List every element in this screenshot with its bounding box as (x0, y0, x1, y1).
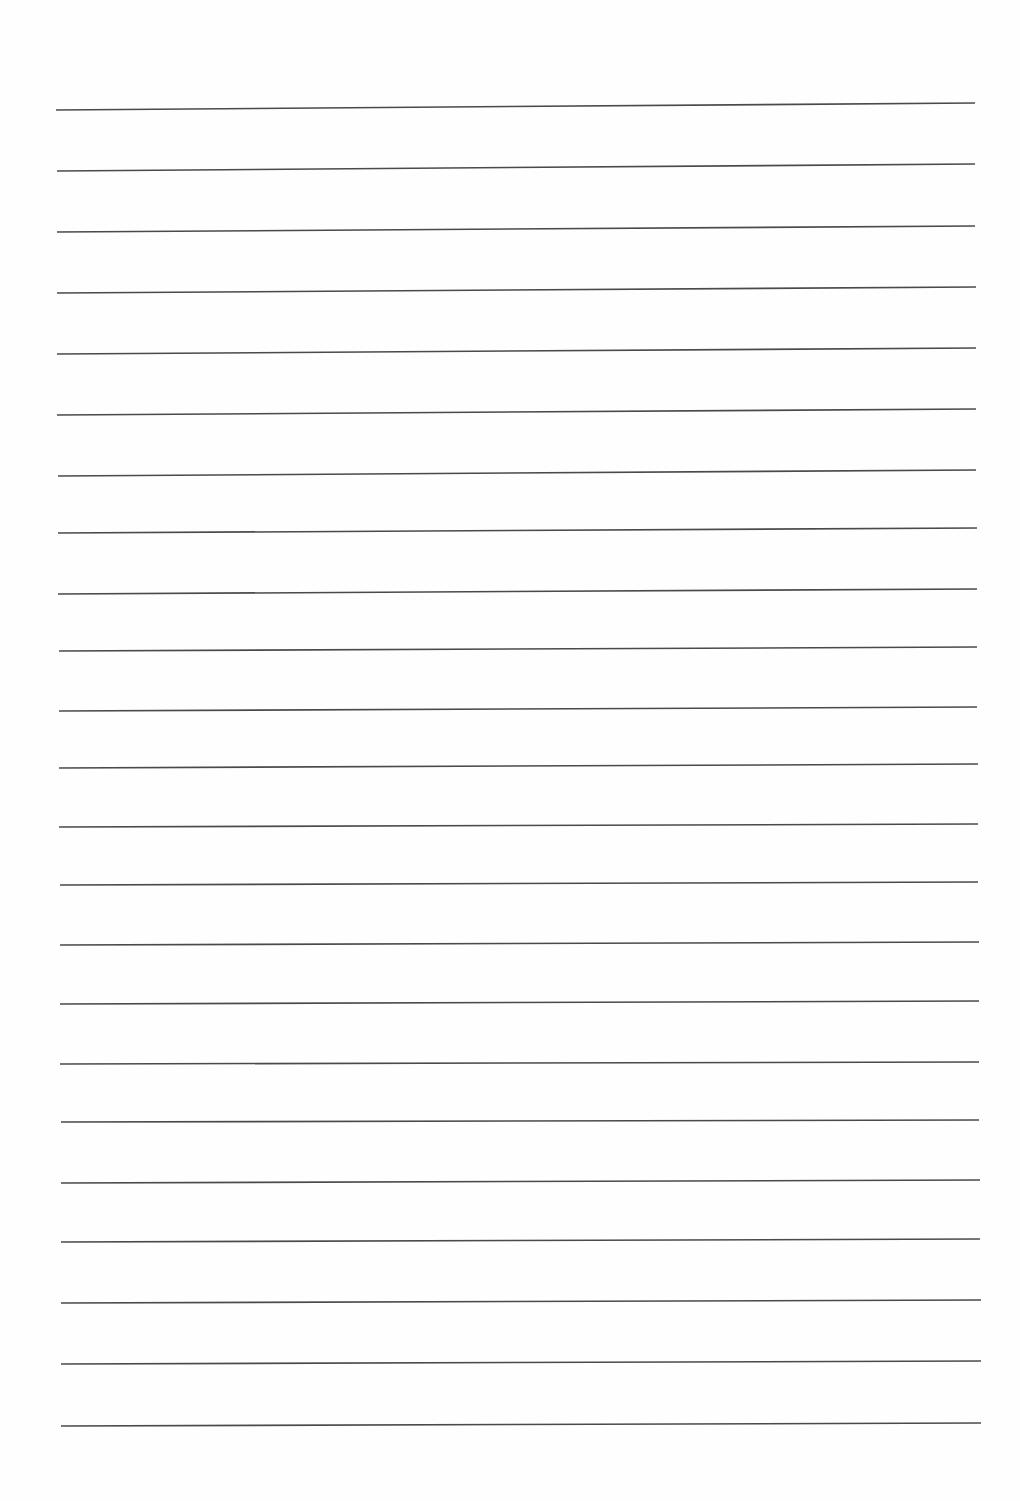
ruled-line-3 (57, 226, 975, 232)
ruled-line-13 (59, 824, 978, 827)
ruled-line-1 (56, 103, 975, 110)
ruled-lines (0, 0, 1020, 1501)
ruled-paper-page (0, 0, 1020, 1501)
ruled-line-12 (59, 764, 978, 768)
ruled-line-5 (57, 348, 976, 354)
ruled-line-11 (59, 707, 977, 711)
ruled-line-23 (61, 1423, 981, 1426)
ruled-line-14 (60, 882, 978, 885)
ruled-line-22 (61, 1361, 981, 1364)
ruled-line-15 (60, 942, 979, 945)
ruled-line-17 (60, 1062, 979, 1064)
ruled-line-4 (57, 287, 976, 293)
ruled-line-18 (61, 1120, 979, 1122)
ruled-line-2 (57, 164, 975, 171)
ruled-line-19 (61, 1180, 980, 1183)
ruled-line-7 (58, 470, 976, 476)
ruled-line-6 (57, 409, 976, 415)
ruled-line-9 (58, 589, 977, 594)
ruled-line-20 (61, 1239, 980, 1242)
ruled-line-16 (60, 1001, 979, 1004)
ruled-line-8 (58, 528, 977, 533)
ruled-line-21 (61, 1300, 981, 1303)
ruled-line-10 (59, 647, 977, 651)
